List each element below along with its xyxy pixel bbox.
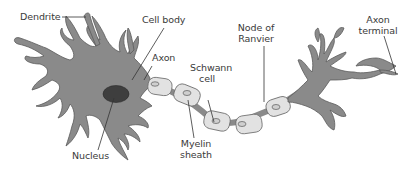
label-schwann-cell: Schwann cell: [190, 62, 224, 84]
label-axon: Axon: [152, 52, 175, 63]
label-axon-terminal-line1: Axon: [356, 14, 400, 25]
label-node-of-ranvier: Node of Ranvier: [234, 22, 278, 44]
label-axon-terminal-line2: terminal: [356, 25, 400, 36]
label-node-of-ranvier-line1: Node of: [234, 22, 278, 33]
label-dendrite: Dendrite: [20, 11, 61, 22]
label-myelin-sheath-line2: sheath: [176, 149, 216, 160]
nucleus-shape: [103, 86, 129, 103]
label-myelin-sheath: Myelin sheath: [176, 138, 216, 160]
myelin-sheath-segments: [147, 76, 292, 134]
neuron-diagram: Dendrite Cell body Axon Schwann cell Nod…: [0, 0, 404, 182]
label-myelin-sheath-line1: Myelin: [176, 138, 216, 149]
label-schwann-cell-line1: Schwann: [190, 62, 224, 73]
axon-terminal-shape: [288, 27, 398, 130]
cell-body-shape: [14, 13, 152, 160]
label-node-of-ranvier-line2: Ranvier: [234, 33, 278, 44]
label-nucleus: Nucleus: [72, 150, 109, 161]
label-schwann-cell-line2: cell: [190, 73, 224, 84]
label-cell-body: Cell body: [142, 14, 185, 25]
label-axon-terminal: Axon terminal: [356, 14, 400, 36]
